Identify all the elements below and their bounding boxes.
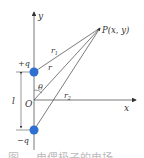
line-r (34, 28, 100, 100)
figure-caption: 图 ... 电偶极子的电场 (8, 151, 113, 158)
point-label: P(x, y) (101, 25, 129, 35)
separation-label: l (12, 96, 15, 106)
positive-charge (30, 68, 39, 77)
x-axis-label: x (124, 103, 129, 113)
theta-label: θ (38, 83, 43, 92)
line-r2 (34, 28, 100, 130)
dipole-diagram: y x O P(x, y) +q −q l θ r1 r r2 图 ... 电偶… (0, 0, 144, 158)
r1-label: r1 (51, 46, 58, 56)
positive-charge-label: +q (18, 59, 30, 68)
negative-charge (30, 126, 39, 135)
r2-label: r2 (64, 91, 71, 101)
r-label: r (48, 63, 53, 72)
line-r1 (34, 28, 100, 72)
y-axis-label: y (37, 11, 44, 21)
origin-label: O (25, 99, 33, 109)
negative-charge-label: −q (17, 136, 29, 145)
